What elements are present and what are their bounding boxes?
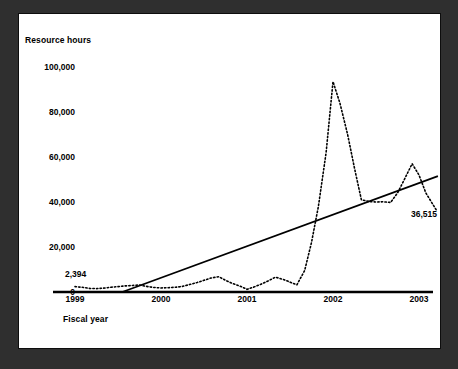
chart-panel: Resource hours Fiscal year 100,000 80,00… (18, 13, 441, 349)
figure-background: Resource hours Fiscal year 100,000 80,00… (0, 0, 458, 369)
series-trend-solid-line (122, 176, 438, 292)
series-actual-dotted-line (75, 82, 436, 290)
plot-area (19, 14, 441, 349)
series-layer (75, 82, 438, 292)
